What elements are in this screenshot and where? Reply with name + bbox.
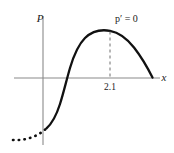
curve-dotted-tail <box>13 128 47 140</box>
y-axis-label: P <box>36 12 44 24</box>
curve-solid <box>47 30 153 128</box>
x-axis-label: x <box>161 71 167 83</box>
critical-point-annotation: p′ = 0 <box>115 13 138 24</box>
population-curve-figure: P x 2.1 p′ = 0 <box>0 0 174 153</box>
x-tick-label-2-1: 2.1 <box>104 82 116 92</box>
figure-container: P x 2.1 p′ = 0 <box>0 0 174 153</box>
